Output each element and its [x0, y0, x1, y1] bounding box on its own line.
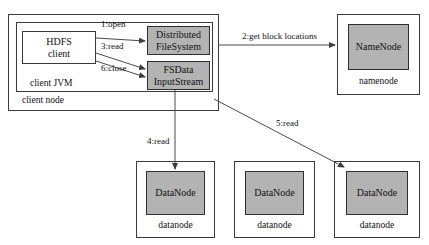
datanode-caption-3: datanode	[334, 220, 420, 230]
arrow-label-1-open: 1:open	[101, 19, 126, 29]
datanode-caption-1: datanode	[136, 220, 215, 230]
fsdata-inputstream-box	[147, 61, 210, 90]
datanode-box-3	[346, 171, 408, 215]
arrow-label-5-read: 5:read	[276, 118, 299, 128]
namenode-box	[348, 24, 409, 70]
hdfs-read-dataflow-diagram: client node client JVM HDFS client Distr…	[0, 0, 429, 245]
arrow-label-4-read: 4:read	[147, 136, 170, 146]
client-node-label: client node	[22, 95, 64, 105]
datanode-box-1	[146, 171, 205, 215]
client-jvm-label: client JVM	[30, 78, 72, 88]
arrow-label-2-get-block-locations: 2:get block locations	[242, 31, 317, 41]
namenode-caption: namenode	[337, 76, 420, 86]
hdfs-client-box	[22, 31, 96, 64]
datanode-caption-2: datanode	[234, 220, 315, 230]
arrow-5-read	[214, 99, 344, 167]
arrow-label-6-close: 6:close	[101, 63, 127, 73]
arrow-label-3-read: 3:read	[101, 41, 124, 51]
datanode-box-2	[245, 171, 304, 215]
distributed-filesystem-box	[147, 26, 210, 55]
